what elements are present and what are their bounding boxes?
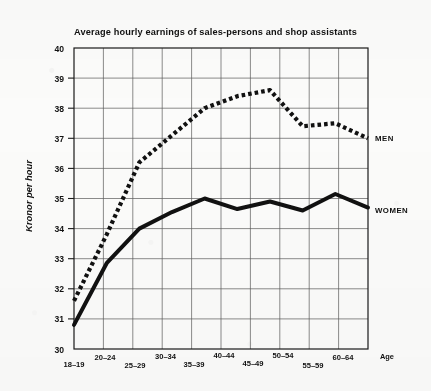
y-tick-40: 40 xyxy=(54,44,64,54)
y-tick-34: 34 xyxy=(54,224,64,234)
chart-title: Average hourly earnings of sales-persons… xyxy=(74,27,357,37)
y-tick-31: 31 xyxy=(54,314,64,324)
y-tick-33: 33 xyxy=(54,254,64,264)
x-tick-30-34: 30–34 xyxy=(155,352,177,361)
x-axis-label: Age xyxy=(380,352,394,361)
y-axis-label: Kronor per hour xyxy=(23,159,34,232)
y-tick-39: 39 xyxy=(54,74,64,84)
y-tick-32: 32 xyxy=(54,284,64,294)
y-tick-30: 30 xyxy=(54,345,64,355)
y-tick-37: 37 xyxy=(54,134,64,144)
x-tick-60-64: 60–64 xyxy=(332,353,354,362)
x-tick-55-59: 55–59 xyxy=(302,361,323,370)
chart-background xyxy=(0,0,431,391)
y-tick-38: 38 xyxy=(54,104,64,114)
x-tick-40-44: 40–44 xyxy=(213,351,235,360)
y-tick-36: 36 xyxy=(54,164,64,174)
x-tick-45-49: 45–49 xyxy=(242,359,263,368)
series-label-women: WOMEN xyxy=(375,206,408,215)
series-label-men: MEN xyxy=(375,134,394,143)
x-tick-20-24: 20–24 xyxy=(94,353,116,362)
x-tick-50-54: 50–54 xyxy=(272,351,294,360)
x-tick-35-39: 35–39 xyxy=(183,360,204,369)
x-tick-25-29: 25–29 xyxy=(124,361,145,370)
x-tick-18-19: 18–19 xyxy=(63,360,84,369)
earnings-line-chart: Average hourly earnings of sales-persons… xyxy=(0,0,431,391)
y-tick-35: 35 xyxy=(54,194,64,204)
